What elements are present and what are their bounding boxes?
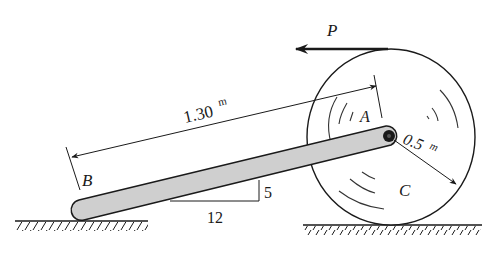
svg-text:m: m [217, 94, 228, 108]
pin-a [383, 130, 395, 142]
label-p: P [326, 21, 337, 40]
mechanics-diagram: P 5 12 1.30 m 0.5 m A B C [0, 0, 499, 254]
label-b: B [82, 171, 93, 190]
label-a: A [359, 108, 370, 125]
diagram-svg: P 5 12 1.30 m 0.5 m A B C [0, 0, 499, 254]
label-c: C [399, 181, 411, 200]
ground-right [303, 225, 482, 235]
ground-left [15, 221, 148, 231]
slope-rise-label: 5 [264, 184, 272, 201]
slope-run-label: 12 [207, 209, 223, 226]
svg-text:1.30: 1.30 [182, 102, 215, 127]
